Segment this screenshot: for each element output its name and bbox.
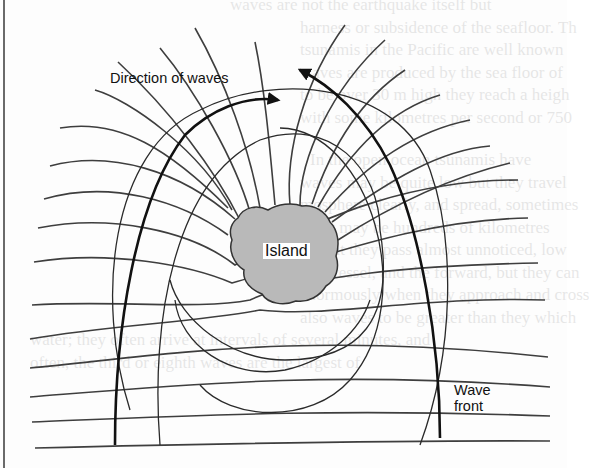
wave-front-label-line2: front bbox=[454, 398, 491, 414]
wave-front-label-line1: Wave bbox=[454, 382, 491, 398]
direction-of-waves-label: Direction of waves bbox=[110, 70, 228, 86]
wave-front-label: Wave front bbox=[454, 382, 491, 414]
island-label: Island bbox=[263, 243, 310, 259]
